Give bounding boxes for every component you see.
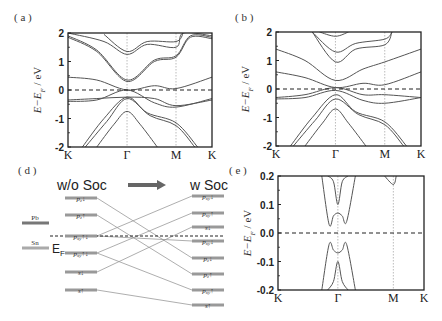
band-line (68, 36, 212, 81)
x-tick-label: K (420, 291, 429, 305)
svg-text:s↓: s↓ (205, 224, 211, 232)
arrow-icon (128, 180, 166, 190)
band-line (385, 176, 397, 185)
band-line (68, 77, 212, 90)
svg-text:pz↑: pz↑ (203, 271, 213, 280)
left-level-s: s↓ (65, 269, 97, 277)
y-tick-label: 2 (266, 27, 272, 38)
atom-level-sn: Sn (22, 239, 49, 250)
y-tick-label: -1 (55, 114, 64, 125)
with-soc-title: w Soc (189, 177, 228, 193)
band-line (276, 72, 421, 88)
svg-text:pz↑: pz↑ (76, 212, 86, 221)
level-connection (97, 290, 192, 305)
fermi-level-label: EF (52, 242, 65, 258)
y-axis-label: E−EF / eV (241, 210, 257, 258)
panel-d-label: ( d ) (18, 164, 37, 177)
panel-d-energy-level-diagram: pz↓pz↑pxy↑↓pxy↑↓s↓s↑pxy↓pxy↑s↓pxy↓pz↓pz↑… (22, 193, 224, 310)
right-level-pz: pz↑ (192, 271, 224, 280)
y-tick-label: -0.2 (257, 285, 275, 296)
y-tick-label: 0.0 (260, 228, 274, 239)
panel-e-band-structure-zoom: 0.20.10.0-0.1-0.2KΓMKE−EF / eV (241, 171, 429, 305)
left-level-pz: pz↓ (65, 195, 97, 204)
svg-text:pxy↑: pxy↑ (201, 210, 213, 219)
panel-a-label: ( a ) (14, 11, 32, 24)
band-line (82, 97, 197, 147)
level-connection (97, 253, 192, 290)
y-tick-label: 1 (266, 56, 272, 67)
y-tick-label: 0.2 (260, 171, 274, 182)
band-line (322, 242, 356, 290)
panel-e-label: ( e ) (229, 164, 247, 177)
band-line (291, 95, 407, 146)
y-tick-label: 1 (58, 57, 64, 68)
x-tick-label: K (272, 147, 281, 161)
x-tick-label: Γ (124, 148, 131, 162)
left-level-pxy: pxy↑↓ (65, 233, 97, 242)
x-tick-label: K (274, 291, 283, 305)
atom-level-pb: Pb (22, 214, 49, 225)
x-tick-label: Γ (332, 147, 339, 161)
right-level-s: s↑ (192, 302, 224, 310)
y-tick-label: -0.1 (257, 257, 275, 268)
y-tick-label: 0 (266, 84, 272, 95)
svg-text:s↓: s↓ (78, 269, 84, 277)
svg-text:pxy↑↓: pxy↑↓ (73, 233, 89, 242)
y-axis-label: E−EF / eV (239, 66, 255, 114)
y-tick-label: 2 (58, 28, 64, 39)
left-level-pz: pz↑ (65, 212, 97, 221)
x-tick-label: M (171, 148, 182, 162)
band-line (68, 35, 212, 80)
panel-b-label: ( b ) (235, 11, 254, 24)
right-level-pxy: pxy↑ (192, 287, 224, 296)
x-tick-label: M (388, 291, 399, 305)
svg-text:Pb: Pb (31, 214, 39, 222)
svg-text:s↑: s↑ (78, 287, 84, 295)
figure: 210-1-2KΓMKE−EF / eV 210-1-2KΓMKE−EF / e… (0, 0, 442, 321)
x-tick-label: K (417, 147, 426, 161)
svg-text:pxy↑: pxy↑ (201, 287, 213, 296)
without-soc-title: w/o Soc (56, 177, 107, 193)
svg-text:Sn: Sn (31, 239, 39, 247)
right-level-pz: pz↓ (192, 255, 224, 264)
svg-text:s↑: s↑ (205, 302, 211, 310)
panel-b-band-structure-soc: 210-1-2KΓMKE−EF / eV (239, 27, 426, 161)
level-connection (97, 213, 192, 253)
band-line (68, 97, 212, 106)
svg-text:pz↓: pz↓ (203, 255, 213, 264)
level-connection (97, 196, 192, 236)
panel-a-band-structure: 210-1-2KΓMKE−EF / eV (31, 28, 217, 162)
x-tick-label: K (64, 148, 73, 162)
svg-text:pxy↓: pxy↓ (201, 193, 213, 202)
y-tick-label: -1 (263, 113, 272, 124)
x-tick-label: M (379, 147, 390, 161)
x-tick-label: Γ (334, 291, 341, 305)
right-level-s: s↓ (192, 224, 224, 232)
level-connection (97, 198, 192, 258)
y-tick-label: 0.1 (260, 200, 274, 211)
y-axis-label: E−EF / eV (31, 67, 47, 115)
y-tick-label: 0 (58, 85, 64, 96)
left-level-pxy: pxy↑↓ (65, 250, 97, 259)
left-level-s: s↑ (65, 287, 97, 295)
band-line (276, 90, 421, 103)
x-tick-label: K (208, 148, 217, 162)
svg-text:pxy↓: pxy↓ (201, 238, 213, 247)
svg-text:pxy↑↓: pxy↑↓ (73, 250, 89, 259)
band-line (312, 32, 392, 62)
svg-text:pz↓: pz↓ (76, 195, 86, 204)
right-level-pxy: pxy↓ (192, 238, 224, 247)
level-connection (97, 236, 192, 241)
right-level-pxy: pxy↓ (192, 193, 224, 202)
right-level-pxy: pxy↑ (192, 210, 224, 219)
